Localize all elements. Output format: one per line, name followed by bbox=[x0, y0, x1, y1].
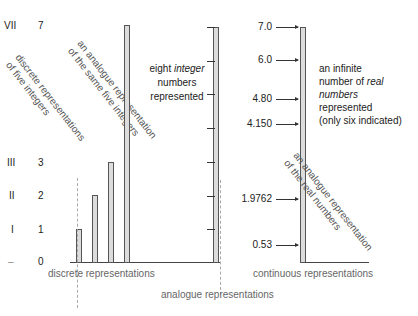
discrete-bottom-label: discrete representations bbox=[48, 268, 155, 279]
arrow-0-53 bbox=[276, 245, 298, 246]
discrete-bar-3 bbox=[108, 162, 114, 263]
infinite-reals-line2: number of bbox=[319, 76, 367, 87]
infinite-reals-italic-numbers: numbers bbox=[319, 89, 358, 100]
arrow-4-80 bbox=[276, 99, 298, 100]
value-7-0: 7.0 bbox=[236, 21, 272, 32]
discrete-dashed-divider bbox=[77, 178, 78, 308]
roman-1: I bbox=[11, 224, 14, 235]
integer-tick-6 bbox=[207, 61, 215, 62]
eight-integers-line2: numbers bbox=[147, 76, 207, 90]
eight-integers-text: eight integer numbers represented bbox=[147, 62, 207, 104]
arabic-7: 7 bbox=[38, 20, 44, 31]
integer-tick-5 bbox=[207, 94, 215, 95]
infinite-reals-line1: an infinite bbox=[319, 62, 402, 75]
eight-integers-line1: eight bbox=[149, 63, 173, 74]
infinite-reals-text: an infinite number of real numbers repre… bbox=[319, 62, 402, 127]
arrow-4-150 bbox=[276, 124, 298, 125]
infinite-reals-italic-real: real bbox=[367, 76, 384, 87]
discrete-rotated-label: discrete representations of five integer… bbox=[3, 52, 88, 151]
arrow-6-0 bbox=[276, 60, 298, 61]
infinite-reals-line5: (only six indicated) bbox=[319, 114, 402, 127]
integer-tick-3 bbox=[207, 162, 215, 163]
value-4-150: 4.150 bbox=[226, 118, 272, 129]
discrete-bar-7 bbox=[124, 25, 130, 263]
value-4-80: 4.80 bbox=[236, 93, 272, 104]
discrete-bar-2 bbox=[92, 195, 98, 263]
eight-integers-italic: integer bbox=[174, 63, 205, 74]
integer-tick-1 bbox=[207, 229, 215, 230]
arrow-7-0 bbox=[276, 27, 298, 28]
baseline-right bbox=[305, 262, 369, 263]
integer-tick-2 bbox=[207, 196, 215, 197]
discrete-rotated-line2: of five integers bbox=[3, 59, 78, 150]
integer-analogue-bar bbox=[213, 27, 219, 263]
value-0-53: 0.53 bbox=[236, 239, 272, 250]
arrow-1-9762 bbox=[276, 199, 298, 200]
value-1-9762: 1.9762 bbox=[220, 193, 272, 204]
infinite-reals-line4: represented bbox=[319, 101, 402, 114]
eight-integers-line3: represented bbox=[147, 90, 207, 104]
roman-0: – bbox=[8, 256, 14, 267]
analogue-bottom-label: analogue representations bbox=[161, 289, 274, 300]
roman-3: III bbox=[7, 157, 15, 168]
value-6-0: 6.0 bbox=[236, 54, 272, 65]
arabic-2: 2 bbox=[38, 190, 44, 201]
continuous-bottom-label: continuous representations bbox=[253, 268, 373, 279]
integer-tick-7 bbox=[207, 27, 215, 28]
roman-2: II bbox=[9, 190, 15, 201]
arabic-0: 0 bbox=[38, 256, 44, 267]
integer-tick-4 bbox=[207, 128, 215, 129]
arabic-3: 3 bbox=[38, 157, 44, 168]
arabic-1: 1 bbox=[38, 224, 44, 235]
roman-7: VII bbox=[4, 20, 16, 31]
real-analogue-bar bbox=[300, 27, 306, 263]
